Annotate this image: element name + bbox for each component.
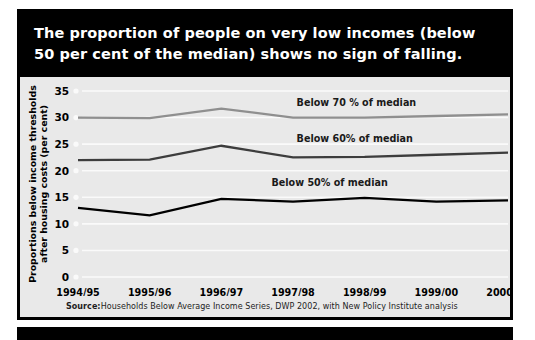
series-label: Below 50% of median: [272, 177, 388, 188]
series-line: [78, 109, 508, 119]
source-text: Households Below Average Income Series, …: [101, 302, 458, 311]
y-axis-tick-dot: [73, 168, 78, 173]
chart-title-line-1: The proportion of people on very low inc…: [34, 23, 496, 44]
line-chart-svg: 05101520253035Proportions below income t…: [20, 77, 510, 302]
y-axis-tick-label: 35: [54, 85, 69, 97]
series-line: [78, 198, 508, 216]
source-label: Source:: [66, 302, 101, 311]
y-axis-tick-label: 5: [62, 244, 69, 256]
y-axis-tick-dot: [73, 89, 78, 94]
y-axis-tick-label: 10: [54, 218, 69, 230]
series-line: [78, 146, 508, 160]
chart-title-line-2: 50 per cent of the median) shows no sign…: [34, 44, 496, 65]
y-axis-tick-dot: [73, 221, 78, 226]
y-axis-title-line: after housing costs (per cent): [38, 105, 49, 263]
series-label: Below 60% of median: [297, 133, 413, 144]
chart-plot-area: 05101520253035Proportions below income t…: [20, 77, 510, 302]
y-axis-tick-label: 0: [62, 271, 69, 283]
y-axis-tick-dot: [73, 195, 78, 200]
y-axis-tick-label: 15: [54, 191, 69, 203]
y-axis-tick-label: 25: [54, 138, 69, 150]
y-axis-tick-label: 30: [54, 112, 69, 124]
bottom-black-bar: [17, 327, 513, 340]
chart-figure: The proportion of people on very low inc…: [17, 9, 513, 320]
y-axis-tick-label: 20: [54, 165, 69, 177]
y-axis-tick-dot: [73, 115, 78, 120]
y-axis-title-line: Proportions below income thresholds: [27, 85, 38, 283]
y-axis-tick-dot: [73, 142, 78, 147]
y-axis-tick-dot: [73, 248, 78, 253]
y-axis-tick-dot: [73, 275, 78, 280]
chart-title: The proportion of people on very low inc…: [20, 12, 510, 77]
chart-source-note: Source: Households Below Average Income …: [20, 296, 510, 317]
series-label: Below 70 % of median: [297, 97, 417, 108]
